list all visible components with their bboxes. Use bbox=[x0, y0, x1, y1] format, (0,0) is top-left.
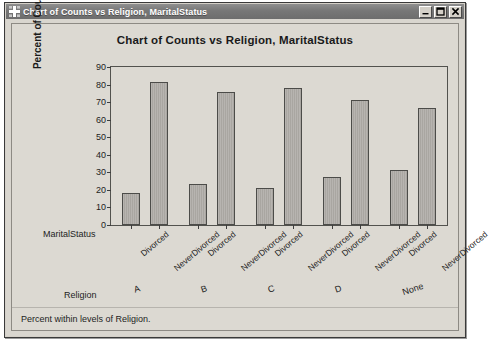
y-axis-tick-label: 70 bbox=[96, 97, 106, 107]
bar bbox=[122, 193, 140, 225]
y-axis-tick-mark bbox=[107, 155, 111, 156]
bar bbox=[150, 82, 168, 225]
x-axis-inner-label: Divorced bbox=[138, 229, 170, 258]
y-axis-tick-label: 80 bbox=[96, 80, 106, 90]
y-axis-tick-mark bbox=[107, 207, 111, 208]
y-axis-tick-label: 0 bbox=[101, 220, 106, 230]
x-axis-tick-mark bbox=[399, 225, 400, 229]
plot-area: 0102030405060708090 bbox=[110, 66, 448, 226]
y-axis-tick-mark bbox=[107, 85, 111, 86]
x-axis-tick-mark bbox=[159, 225, 160, 229]
close-button[interactable] bbox=[449, 6, 462, 18]
y-axis-tick-label: 10 bbox=[96, 202, 106, 212]
window-title: Chart of Counts vs Religion, MaritalStat… bbox=[23, 7, 417, 17]
chart-panel: Chart of Counts vs Religion, MaritalStat… bbox=[11, 23, 459, 331]
chart-title: Chart of Counts vs Religion, MaritalStat… bbox=[12, 34, 458, 46]
y-axis-tick-label: 20 bbox=[96, 185, 106, 195]
y-axis-tick-label: 40 bbox=[96, 150, 106, 160]
x-axis-tick-mark bbox=[427, 225, 428, 229]
x-axis-inner-title: MaritalStatus bbox=[43, 229, 96, 239]
y-axis-tick-label: 90 bbox=[96, 62, 106, 72]
y-axis-tick-mark bbox=[107, 102, 111, 103]
x-axis-group-label: None bbox=[401, 281, 425, 297]
bar bbox=[351, 100, 369, 225]
window-client-area: Chart of Counts vs Religion, MaritalStat… bbox=[6, 19, 464, 336]
y-axis-tick-mark bbox=[107, 120, 111, 121]
x-axis-group-label: C bbox=[267, 283, 276, 295]
x-axis-tick-mark bbox=[265, 225, 266, 229]
minitab-grid-icon bbox=[9, 6, 20, 17]
x-axis-tick-mark bbox=[131, 225, 132, 229]
y-axis-tick-mark bbox=[107, 137, 111, 138]
y-axis-tick-label: 30 bbox=[96, 167, 106, 177]
y-axis-tick-mark bbox=[107, 225, 111, 226]
y-axis-tick-mark bbox=[107, 172, 111, 173]
x-axis-tick-mark bbox=[226, 225, 227, 229]
bar bbox=[390, 170, 408, 225]
minimize-button[interactable] bbox=[419, 6, 432, 18]
x-axis-inner-label: NeverDivorced bbox=[440, 229, 489, 273]
chart-footnote: Percent within levels of Religion. bbox=[21, 314, 151, 324]
x-axis-tick-mark bbox=[198, 225, 199, 229]
maximize-button[interactable] bbox=[434, 6, 447, 18]
footnote-divider bbox=[12, 307, 458, 308]
y-axis-tick-mark bbox=[107, 67, 111, 68]
y-axis-title: Percent of Counts bbox=[32, 0, 43, 90]
bar bbox=[418, 108, 436, 225]
x-axis-tick-mark bbox=[293, 225, 294, 229]
y-axis-tick-label: 60 bbox=[96, 115, 106, 125]
y-axis-tick-label: 50 bbox=[96, 132, 106, 142]
x-axis-group-label: B bbox=[199, 283, 208, 294]
chart-window: Chart of Counts vs Religion, MaritalStat… bbox=[4, 2, 466, 338]
x-axis-group-label: A bbox=[132, 283, 141, 294]
x-axis-tick-mark bbox=[360, 225, 361, 229]
bar bbox=[284, 88, 302, 225]
bar bbox=[217, 92, 235, 225]
bar bbox=[323, 177, 341, 225]
y-axis-tick-mark bbox=[107, 190, 111, 191]
y-axis-title-wrap: Percent of Counts bbox=[38, 72, 54, 212]
window-title-bar[interactable]: Chart of Counts vs Religion, MaritalStat… bbox=[6, 4, 464, 19]
x-axis-tick-mark bbox=[332, 225, 333, 229]
x-axis-group-label: D bbox=[334, 283, 343, 295]
bar bbox=[189, 184, 207, 225]
bar bbox=[256, 188, 274, 225]
x-axis-group-title: Religion bbox=[64, 290, 97, 300]
